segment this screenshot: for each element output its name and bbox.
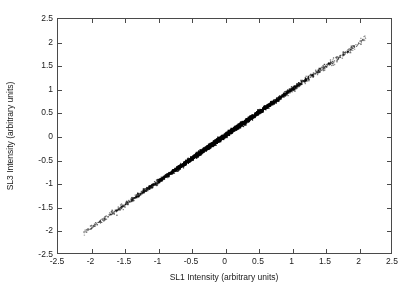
y-tick-label: 0 [24,131,53,141]
x-tick [293,19,294,23]
y-tick [387,161,391,162]
x-tick [192,19,193,23]
x-tick [360,19,361,23]
y-tick [387,113,391,114]
x-tick [159,249,160,253]
x-tick [92,19,93,23]
plot-area [57,18,392,254]
x-tick [326,19,327,23]
y-tick [58,137,62,138]
x-tick [226,19,227,23]
x-tick [192,249,193,253]
y-axis-title: SL3 Intensity (arbitrary units) [5,82,15,191]
y-tick [58,161,62,162]
x-tick [326,249,327,253]
y-tick [387,43,391,44]
x-tick-label: -1.5 [117,256,132,266]
y-tick [58,43,62,44]
x-axis-title: SL1 Intensity (arbitrary units) [170,272,279,282]
y-tick [387,231,391,232]
y-tick-label: -2.5 [24,249,53,259]
y-tick-label: -1.5 [24,202,53,212]
x-tick-label: 2 [356,256,361,266]
x-tick-label: 0.5 [252,256,264,266]
y-tick-label: -2 [24,225,53,235]
y-tick [58,231,62,232]
y-tick-label: 1 [24,84,53,94]
y-tick-label: 1.5 [24,60,53,70]
scatter-canvas [58,19,391,253]
y-tick-label: -0.5 [24,155,53,165]
x-tick [92,249,93,253]
y-tick [58,208,62,209]
x-tick-label: 1 [289,256,294,266]
x-tick [125,249,126,253]
y-tick-label: -1 [24,178,53,188]
y-tick [387,66,391,67]
y-tick [58,113,62,114]
y-tick-label: 2 [24,37,53,47]
y-tick [387,208,391,209]
x-tick [360,249,361,253]
x-tick-label: 0 [222,256,227,266]
x-tick [226,249,227,253]
x-tick-label: -0.5 [184,256,199,266]
figure: -2.5-2-1.5-1-0.500.511.522.5 -2.5-2-1.5-… [0,0,417,294]
y-tick [387,90,391,91]
x-tick-label: -2 [87,256,95,266]
x-tick [259,19,260,23]
x-tick [125,19,126,23]
y-tick [58,184,62,185]
y-tick-label: 0.5 [24,107,53,117]
y-tick [387,137,391,138]
x-tick [293,249,294,253]
y-tick-label: 2.5 [24,13,53,23]
y-tick [387,184,391,185]
y-tick [58,66,62,67]
x-tick [159,19,160,23]
x-tick-label: 1.5 [319,256,331,266]
y-tick [58,90,62,91]
x-tick-label: 2.5 [386,256,398,266]
x-tick-label: -1 [154,256,162,266]
x-tick [259,249,260,253]
